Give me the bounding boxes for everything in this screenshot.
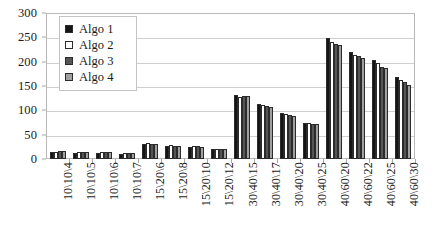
x-tick-label: 15\20\8 <box>177 162 189 200</box>
x-tick-label: 10\10\7 <box>131 162 143 200</box>
bar-group <box>161 13 184 159</box>
bar <box>315 124 319 159</box>
bar <box>108 152 112 159</box>
x-tick-label: 10\10\5 <box>85 162 97 200</box>
legend-item: Algo 1 <box>65 21 131 37</box>
y-tick-label: 50 <box>24 129 37 141</box>
y-tick-label: 150 <box>18 80 37 92</box>
x-tick-label: 15\20\10 <box>200 162 212 206</box>
chart-legend: Algo 1Algo 2Algo 3Algo 4 <box>59 16 137 91</box>
legend-item-label: Algo 3 <box>79 55 113 68</box>
y-tick-label: 200 <box>18 56 37 68</box>
x-tick-label: 10\10\4 <box>62 162 74 200</box>
x-tick-label: 40\60\30 <box>408 162 420 206</box>
legend-item-label: Algo 4 <box>79 71 113 84</box>
bar-group <box>254 13 277 159</box>
bar <box>154 144 158 159</box>
x-tick-label: 40\60\25 <box>385 162 397 206</box>
y-tick-label: 100 <box>18 104 37 116</box>
bar-group <box>277 13 300 159</box>
y-tick-label: 0 <box>31 153 37 165</box>
legend-item: Algo 3 <box>65 53 131 69</box>
bar <box>131 153 135 159</box>
legend-swatch-icon <box>65 57 73 65</box>
bar <box>292 116 296 159</box>
x-tick-label: 15\20\12 <box>223 162 235 206</box>
bar-group <box>207 13 230 159</box>
y-tick-label: 250 <box>18 31 37 43</box>
bar <box>338 45 342 159</box>
legend-item: Algo 2 <box>65 37 131 53</box>
y-axis: 050100150200250300 <box>0 0 44 233</box>
x-tick-label: 30\40\25 <box>316 162 328 206</box>
x-tick-label: 40\60\22 <box>362 162 374 206</box>
bar <box>223 149 227 159</box>
x-axis: 10\10\410\10\510\10\610\10\715\20\615\20… <box>46 162 415 232</box>
bar-group <box>231 13 254 159</box>
x-tick-label: 30\40\20 <box>293 162 305 206</box>
x-tick-label: 30\40\15 <box>247 162 259 206</box>
bar-group <box>300 13 323 159</box>
legend-swatch-icon <box>65 25 73 33</box>
x-tick-label: 30\40\17 <box>270 162 282 206</box>
bar <box>246 96 250 159</box>
legend-item-label: Algo 2 <box>79 39 113 52</box>
x-tick-label: 15\20\6 <box>154 162 166 200</box>
bar-group <box>138 13 161 159</box>
bar <box>407 85 411 159</box>
bar-group <box>346 13 369 159</box>
bar <box>269 107 273 159</box>
bar-group <box>323 13 346 159</box>
bar <box>85 152 89 159</box>
bar <box>384 68 388 159</box>
x-tick-label: 40\60\20 <box>339 162 351 206</box>
bar <box>361 58 365 159</box>
bar-group <box>392 13 415 159</box>
legend-item-label: Algo 1 <box>79 23 113 36</box>
bar <box>200 147 204 159</box>
y-tick-label: 300 <box>18 7 37 19</box>
x-tick-label: 10\10\6 <box>108 162 120 200</box>
bar-chart: 050100150200250300 10\10\410\10\510\10\6… <box>0 0 433 233</box>
legend-swatch-icon <box>65 41 73 49</box>
bar-group <box>369 13 392 159</box>
bar <box>62 151 66 159</box>
legend-swatch-icon <box>65 73 73 81</box>
bar <box>177 146 181 159</box>
bar-group <box>184 13 207 159</box>
legend-item: Algo 4 <box>65 69 131 85</box>
